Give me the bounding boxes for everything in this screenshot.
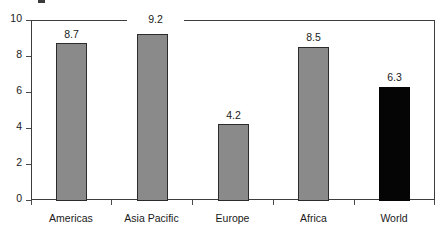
- x-axis-tick-mark: [192, 200, 193, 205]
- value-label-africa: 8.5: [288, 31, 339, 43]
- y-axis-tick-label: 8: [16, 49, 22, 60]
- value-label-americas: 8.7: [46, 28, 97, 40]
- x-axis-tick-mark: [273, 200, 274, 205]
- y-axis-tick-label: 2: [16, 157, 22, 168]
- x-axis-tick-mark: [434, 200, 435, 205]
- bar-world[interactable]: [379, 87, 410, 201]
- y-axis-tick-label: 0: [16, 193, 22, 204]
- x-axis-tick-mark: [31, 200, 32, 205]
- y-axis-tick-label: 4: [16, 121, 22, 132]
- y-axis-tick-label: 10: [10, 13, 22, 24]
- value-label-world: 6.3: [369, 71, 420, 83]
- category-label-europe: Europe: [192, 212, 273, 224]
- y-axis-tick-label: 6: [16, 85, 22, 96]
- bar-chart-figure: 10 8 6 4 2 0 8.7 9.2 4.2 8.5 6.3 America…: [0, 0, 448, 241]
- category-label-americas: Americas: [31, 212, 111, 224]
- category-label-asia-pacific: Asia Pacific: [111, 212, 192, 224]
- category-label-world: World: [354, 212, 434, 224]
- category-label-africa: Africa: [273, 212, 354, 224]
- bar-asia-pacific[interactable]: [137, 34, 168, 201]
- value-label-asia-pacific: 9.2: [127, 13, 184, 25]
- bar-europe[interactable]: [218, 124, 249, 201]
- cropped-title-remnant: [38, 0, 45, 3]
- bar-americas[interactable]: [56, 43, 87, 201]
- value-label-europe: 4.2: [208, 109, 259, 121]
- x-axis-tick-mark: [354, 200, 355, 205]
- x-axis-tick-mark: [111, 200, 112, 205]
- bar-africa[interactable]: [298, 47, 329, 201]
